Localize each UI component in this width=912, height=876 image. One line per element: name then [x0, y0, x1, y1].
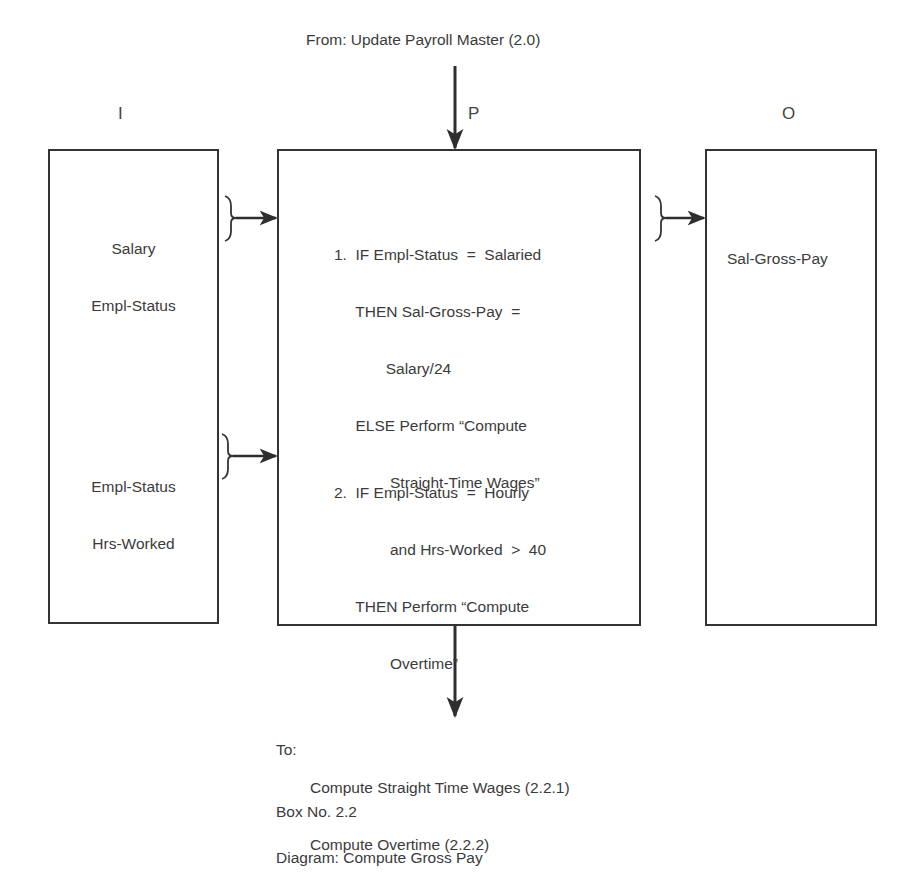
input-group-2: Empl-Status Hrs-Worked: [48, 439, 219, 572]
input-item-empl-status: Empl-Status: [48, 477, 219, 496]
process-step-2-line: and Hrs-Worked > 40: [334, 540, 546, 559]
from-label: From: Update Payroll Master (2.0): [306, 30, 540, 49]
process-step-1-line: THEN Sal-Gross-Pay =: [334, 302, 541, 321]
box-number: Box No. 2.2: [276, 802, 357, 821]
process-column-header: P: [468, 104, 479, 124]
input-column-header: I: [118, 104, 123, 124]
process-step-1-line: 1. IF Empl-Status = Salaried: [334, 245, 541, 264]
to-prefix: To:: [276, 740, 297, 759]
process-step-2-line: THEN Perform “Compute: [334, 597, 546, 616]
output-group-1: Sal-Gross-Pay: [727, 211, 828, 287]
process-step-2: 2. IF Empl-Status = Hourly and Hrs-Worke…: [334, 445, 546, 692]
process-step-2-line: 2. IF Empl-Status = Hourly: [334, 483, 546, 502]
input-bracket-2: [222, 434, 233, 479]
input-item-empl-status: Empl-Status: [48, 296, 219, 315]
process-step-1-line: ELSE Perform “Compute: [334, 416, 541, 435]
process-step-1-line: Salary/24: [334, 359, 541, 378]
input-group-1: Salary Empl-Status: [48, 201, 219, 334]
input-bracket-1: [225, 196, 236, 241]
diagram-title: Diagram: Compute Gross Pay: [276, 848, 483, 867]
output-item-sal-gross-pay: Sal-Gross-Pay: [727, 249, 828, 268]
output-bracket-1: [655, 196, 666, 241]
input-item-salary: Salary: [48, 239, 219, 258]
process-step-2-line: Overtime”: [334, 654, 546, 673]
output-column-header: O: [782, 104, 795, 124]
input-item-hrs-worked: Hrs-Worked: [48, 534, 219, 553]
to-destination-item: Compute Straight Time Wages (2.2.1): [310, 778, 570, 797]
